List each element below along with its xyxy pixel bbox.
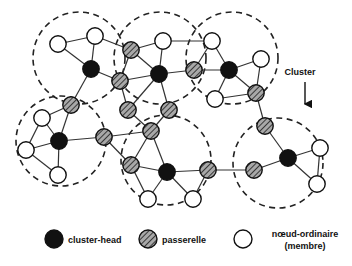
node-cluster-head	[159, 164, 175, 180]
legend-label-noeud-ordinaire-line2: (membre)	[284, 241, 325, 251]
node-gateway	[63, 97, 79, 113]
node-member	[140, 191, 156, 207]
node-gateway	[96, 129, 112, 145]
node-cluster-head	[280, 150, 296, 166]
node-gateway	[123, 42, 139, 58]
legend: cluster-headpasserellenœud-ordinaire(mem…	[45, 229, 338, 251]
cluster-annotation: Cluster	[284, 67, 316, 104]
node-member	[18, 142, 34, 158]
node-member	[253, 51, 269, 67]
node-cluster-head	[83, 61, 99, 77]
node-gateway	[246, 162, 262, 178]
node-member	[87, 28, 103, 44]
node-gateway	[120, 102, 136, 118]
node-gateway	[161, 102, 177, 118]
node-cluster-head	[51, 133, 67, 149]
cluster-boundary-c6	[233, 118, 323, 208]
node-member	[50, 167, 66, 183]
node-gateway	[200, 162, 216, 178]
node-gateway	[112, 73, 128, 89]
node-member	[204, 33, 220, 49]
legend-label-noeud-ordinaire: nœud-ordinaire	[272, 229, 339, 239]
legend-swatch-noeud-ordinaire	[234, 230, 252, 248]
legend-swatch-passerelle	[139, 230, 157, 248]
network-diagram: Cluster cluster-headpasserellenœud-ordin…	[0, 0, 352, 266]
node-member	[155, 33, 171, 49]
node-member	[34, 110, 50, 126]
node-gateway	[123, 157, 139, 173]
node-gateway	[248, 85, 264, 101]
legend-label-passerelle: passerelle	[162, 235, 206, 245]
node-member	[309, 176, 325, 192]
legend-swatch-cluster-head	[45, 230, 63, 248]
node-member	[50, 36, 66, 52]
node-member	[312, 140, 328, 156]
node-gateway	[143, 123, 159, 139]
node-cluster-head	[151, 66, 167, 82]
node-member	[207, 91, 223, 107]
node-member	[185, 191, 201, 207]
node-gateway	[257, 118, 273, 134]
node-gateway	[186, 62, 202, 78]
figure-root: Cluster cluster-headpasserellenœud-ordin…	[0, 0, 352, 266]
cluster-annotation-label: Cluster	[284, 67, 316, 77]
node-cluster-head	[221, 62, 237, 78]
legend-label-cluster-head: cluster-head	[68, 235, 122, 245]
